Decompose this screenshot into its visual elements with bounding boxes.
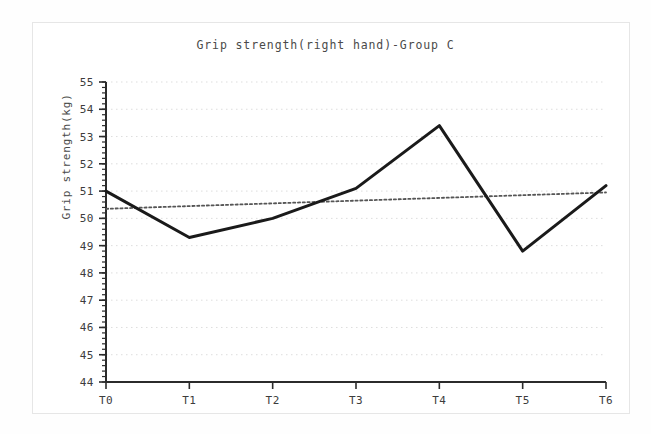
svg-text:50: 50 — [80, 212, 94, 225]
svg-text:55: 55 — [80, 76, 94, 89]
svg-text:53: 53 — [80, 131, 94, 144]
svg-text:48: 48 — [80, 267, 94, 280]
gridlines — [106, 82, 606, 355]
y-axis-ticks — [99, 82, 106, 382]
svg-text:T2: T2 — [266, 394, 280, 407]
svg-text:54: 54 — [80, 103, 94, 116]
svg-text:45: 45 — [80, 349, 94, 362]
svg-text:47: 47 — [80, 294, 94, 307]
line-chart-svg: 555453525150494847464544 T0T1T2T3T4T5T6 — [0, 0, 651, 434]
svg-text:T5: T5 — [516, 394, 530, 407]
svg-text:T6: T6 — [599, 394, 613, 407]
x-axis-tick-labels: T0T1T2T3T4T5T6 — [99, 394, 613, 407]
plot-area: 555453525150494847464544 T0T1T2T3T4T5T6 — [0, 0, 651, 434]
svg-text:49: 49 — [80, 240, 94, 253]
svg-text:T0: T0 — [99, 394, 113, 407]
grip-strength-series — [106, 126, 606, 251]
chart-figure: Grip strength(right hand)-Group C Grip s… — [0, 0, 651, 434]
svg-text:44: 44 — [80, 376, 94, 389]
y-axis-tick-labels: 555453525150494847464544 — [80, 76, 94, 389]
svg-text:51: 51 — [80, 185, 94, 198]
svg-text:T4: T4 — [432, 394, 446, 407]
svg-text:52: 52 — [80, 158, 94, 171]
x-axis-ticks — [106, 382, 606, 389]
svg-text:46: 46 — [80, 321, 94, 334]
trend-line-series — [106, 192, 606, 208]
svg-text:T1: T1 — [182, 394, 196, 407]
svg-text:T3: T3 — [349, 394, 363, 407]
